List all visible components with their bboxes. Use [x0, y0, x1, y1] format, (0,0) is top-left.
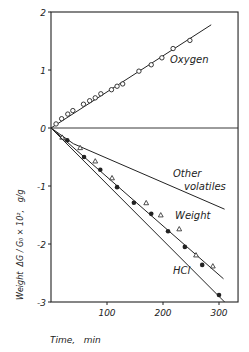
y-tick-label: 2 [40, 8, 46, 18]
marker-filled-circle [98, 167, 103, 172]
marker-open-circle [109, 88, 113, 92]
plot-frame [51, 12, 238, 302]
marker-open-circle [160, 56, 164, 60]
series-oxygen [51, 25, 211, 128]
marker-open-circle [120, 82, 124, 86]
marker-open-circle [59, 117, 63, 121]
marker-open-circle [66, 112, 70, 116]
marker-open-circle [115, 84, 119, 88]
y-tick-label: -2 [37, 240, 46, 250]
marker-open-triangle [177, 227, 182, 231]
marker-open-circle [149, 63, 153, 67]
y-axis-label: Weight ΔG / G₀ × 10², g/g [16, 190, 25, 300]
plot-border [51, 12, 238, 302]
series-weight [51, 128, 224, 279]
marker-filled-circle [82, 155, 87, 160]
x-tick-label: 200 [154, 308, 171, 318]
marker-filled-circle [115, 185, 120, 190]
chart: 210-1-2-3100200300 Oxygen Other volatile… [0, 0, 249, 352]
marker-open-circle [93, 96, 97, 100]
marker-open-circle [188, 38, 192, 42]
label-hcl: HCl [173, 265, 191, 276]
x-axis-label: Time, min [50, 335, 101, 345]
marker-open-circle [137, 69, 141, 73]
marker-filled-circle [217, 293, 222, 298]
marker-open-circle [171, 46, 175, 50]
marker-filled-circle [183, 245, 188, 250]
marker-filled-circle [166, 229, 171, 234]
marker-open-triangle [144, 200, 149, 204]
marker-open-circle [71, 108, 75, 112]
fit-line-oxygen [51, 25, 211, 128]
marker-filled-circle [132, 201, 137, 206]
label-other-volatiles-2: volatiles [184, 181, 226, 192]
marker-filled-circle [200, 263, 205, 268]
marker-open-circle [99, 92, 103, 96]
y-tick-label: -3 [37, 298, 46, 308]
x-tick-label: 300 [210, 308, 227, 318]
x-tick-label: 100 [98, 308, 115, 318]
marker-filled-circle [149, 212, 154, 217]
marker-open-circle [81, 102, 85, 106]
marker-open-triangle [210, 264, 215, 268]
label-weight: Weight [175, 210, 212, 221]
y-tick-label: 0 [40, 124, 46, 134]
marker-open-circle [54, 122, 58, 126]
y-tick-label: -1 [37, 182, 46, 192]
label-other-volatiles-1: Other [173, 168, 202, 179]
marker-open-triangle [93, 159, 98, 163]
marker-filled-circle [65, 138, 70, 143]
series-layer [51, 25, 225, 302]
label-oxygen: Oxygen [170, 54, 209, 65]
marker-open-circle [87, 99, 91, 103]
y-tick-label: 1 [40, 66, 46, 76]
marker-open-triangle [158, 213, 163, 217]
marker-open-triangle [110, 175, 115, 179]
